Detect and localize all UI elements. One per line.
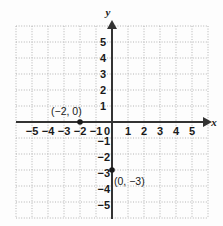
y-axis-arrow-icon xyxy=(107,20,117,29)
x-tick-label: 1 xyxy=(125,125,131,137)
x-tick-label: 2 xyxy=(141,125,147,137)
data-point-marker[interactable] xyxy=(109,167,115,173)
coordinate-plane-figure: x y −5 −4 −3 −2 −1 0 1 2 3 4 5 5 4 3 2 1… xyxy=(0,0,223,226)
x-tick-label: −4 xyxy=(42,125,55,137)
x-tick-labels: −5 −4 −3 −2 −1 0 1 2 3 4 5 xyxy=(26,125,195,137)
x-tick-label: −3 xyxy=(58,125,71,137)
data-point-marker[interactable] xyxy=(77,119,83,125)
x-axis-label: x xyxy=(210,116,217,128)
y-tick-label: 4 xyxy=(100,52,107,64)
x-tick-label: 5 xyxy=(189,125,195,137)
x-tick-label: −5 xyxy=(26,125,39,137)
y-tick-labels: 5 4 3 2 1 −1 −2 −3 −4 −5 xyxy=(97,36,110,211)
x-tick-label: −2 xyxy=(74,125,87,137)
x-tick-label: 3 xyxy=(157,125,163,137)
y-tick-label: −3 xyxy=(97,167,110,179)
data-point-label-b: (0, −3) xyxy=(114,175,145,187)
y-tick-label: −4 xyxy=(97,183,110,195)
y-tick-label: 1 xyxy=(100,100,106,112)
y-axis-label: y xyxy=(104,6,111,18)
y-tick-label: −5 xyxy=(97,199,110,211)
x-tick-label: 4 xyxy=(173,125,180,137)
y-tick-label: −2 xyxy=(97,151,110,163)
y-tick-label: 3 xyxy=(100,68,106,80)
data-point-label-a: (−2, 0) xyxy=(51,105,82,117)
coordinate-plane-svg: x y −5 −4 −3 −2 −1 0 1 2 3 4 5 5 4 3 2 1… xyxy=(0,0,223,226)
y-tick-label: −1 xyxy=(97,135,110,147)
y-tick-label: 2 xyxy=(100,84,106,96)
y-tick-label: 5 xyxy=(100,36,106,48)
